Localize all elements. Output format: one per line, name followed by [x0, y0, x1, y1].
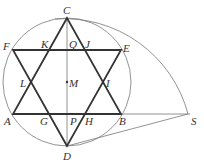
label-F: F — [2, 40, 10, 52]
label-G: G — [40, 115, 48, 127]
label-C: C — [63, 4, 71, 16]
hexagram-diagram: C F K Q J E L M I A G P H B S D — [0, 0, 204, 166]
point-M — [66, 81, 68, 83]
label-P: P — [69, 115, 77, 127]
label-H: H — [84, 115, 94, 127]
label-E: E — [122, 42, 130, 54]
label-D: D — [62, 150, 71, 162]
label-B: B — [119, 115, 126, 127]
label-J: J — [85, 38, 91, 50]
label-M: M — [68, 77, 79, 89]
label-A: A — [3, 115, 11, 127]
label-S: S — [191, 115, 197, 127]
label-Q: Q — [69, 38, 77, 50]
label-L: L — [19, 77, 26, 89]
label-I: I — [105, 77, 111, 89]
label-K: K — [40, 38, 49, 50]
